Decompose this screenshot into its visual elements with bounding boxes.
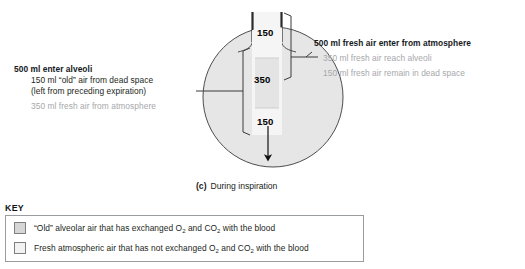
volume-label-bottom: 150	[257, 116, 274, 127]
right-annotation-line-2: 350 ml fresh air reach alveoli	[323, 53, 471, 64]
key-legend-item-fresh-air: Fresh atmospheric air that has not excha…	[14, 242, 309, 254]
key-label-fresh-air-mid: and CO	[219, 243, 251, 253]
key-label-fresh-air-sub2: 2	[250, 248, 253, 254]
figure-caption: (c)During inspiration	[196, 181, 277, 192]
key-label-old-air-post: with the blood	[220, 223, 275, 233]
key-swatch-old-air	[14, 222, 26, 234]
key-label-fresh-air-pre: Fresh atmospheric air that has not excha…	[34, 243, 216, 253]
right-annotation-line-1: 500 ml fresh air enter from atmosphere	[314, 38, 471, 49]
left-annotation-line-1: 500 ml enter alveoli	[14, 64, 156, 75]
key-label-fresh-air-sub1: 2	[216, 248, 219, 254]
key-box: “Old” alveolar air that has exchanged O2…	[5, 215, 364, 262]
right-annotation-line-3: 150 ml fresh air remain in dead space	[323, 68, 471, 79]
key-swatch-fresh-air	[14, 242, 26, 254]
key-label-old-air-sub1: 2	[182, 228, 185, 234]
key-legend-item-old-air: “Old” alveolar air that has exchanged O2…	[14, 222, 275, 234]
key-label-fresh-air-post: with the blood	[254, 243, 309, 253]
left-annotation-line-2: 150 ml “old” air from dead space	[31, 75, 156, 86]
key-heading: KEY	[5, 203, 24, 213]
left-annotation-line-3: (left from preceding expiration)	[31, 86, 156, 97]
key-label-old-air-sub2: 2	[217, 228, 220, 234]
right-annotation-group: 500 ml fresh air enter from atmosphere 3…	[314, 38, 471, 78]
key-label-old-air-mid: and CO	[186, 223, 218, 233]
volume-label-top: 150	[257, 27, 274, 38]
figure-canvas: 150 350 150 500 ml enter alveoli 150 ml …	[0, 0, 525, 269]
figure-caption-text: During inspiration	[211, 181, 278, 191]
key-label-old-air-pre: “Old” alveolar air that has exchanged O	[34, 223, 182, 233]
key-label-fresh-air: Fresh atmospheric air that has not excha…	[34, 243, 309, 253]
figure-caption-label: (c)	[196, 181, 207, 191]
key-label-old-air: “Old” alveolar air that has exchanged O2…	[34, 223, 275, 233]
volume-label-middle: 350	[254, 74, 271, 85]
left-annotation-group: 500 ml enter alveoli 150 ml “old” air fr…	[14, 64, 156, 112]
left-annotation-line-4: 350 ml fresh air from atmosphere	[31, 101, 156, 112]
